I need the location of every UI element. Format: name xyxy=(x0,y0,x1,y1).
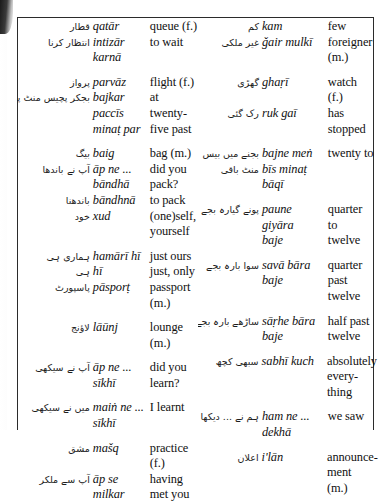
entry-transliteration: ham ne ... dekhā xyxy=(262,409,328,440)
entry-urdu-script: آپ سے ملکر xyxy=(17,472,93,488)
entry-transliteration: sabhī kuch xyxy=(262,354,327,370)
glossary-entry: ہماری ہیhamārī hījust ours xyxy=(17,249,198,265)
entry-transliteration: ghaṛī xyxy=(262,75,328,91)
entry-english-gloss: to wait xyxy=(150,35,198,51)
glossary-entry: ہم نے ... دیکھاham ne ... dekhāwe saw xyxy=(198,409,374,440)
entry-urdu-script: آپ نے باندھا xyxy=(17,162,93,178)
entry-urdu-script: میں نے سیکھی xyxy=(17,400,93,416)
entry-english-gloss: quarter past twelve xyxy=(328,258,374,305)
glossary-entry: میں نے سیکھیmaiṅ ne ... sīkhīI learnt xyxy=(17,400,198,431)
entry-urdu-script: ہماری ہی xyxy=(17,249,93,265)
glossary-entry: گھڑیghaṛīwatch (f.) xyxy=(198,75,374,106)
glossary-entry: لاؤنجlāūnjlounge (m.) xyxy=(17,320,198,351)
entry-english-gloss: did you pack? xyxy=(150,162,198,193)
entry-english-gloss: quarter to twelve xyxy=(328,202,374,249)
entry-english-gloss: foreigner (m.) xyxy=(328,35,374,66)
entry-urdu-script: منٹ باقی xyxy=(198,162,262,178)
entry-urdu-script: خود xyxy=(17,209,93,225)
entry-transliteration: qatār xyxy=(93,19,150,35)
glossary-entry: آپ نے باندھاāp ne ... bāndhādid you pack… xyxy=(17,162,198,193)
entry-urdu-script: اعلان xyxy=(198,450,262,466)
entry-english-gloss: having met you xyxy=(150,472,198,503)
entry-english-gloss: just, only xyxy=(150,264,198,280)
entry-urdu-script: بیگ xyxy=(17,146,93,162)
entry-urdu-script: ساڑھے بارہ بجے xyxy=(198,314,262,330)
glossary-entry: غیر ملکیǧair mulkīforeigner (m.) xyxy=(198,35,374,66)
glossary-entry: قطارqatārqueue (f.) xyxy=(17,19,198,35)
entry-urdu-script: آپ نے سیکھی xyxy=(17,360,93,376)
entry-english-gloss: queue (f.) xyxy=(150,19,198,35)
entry-urdu-script: قطار xyxy=(17,19,93,35)
left-column: قطارqatārqueue (f.)انتظار کرناintizār ka… xyxy=(17,19,198,429)
entry-urdu-script: پرواز xyxy=(17,75,93,91)
glossary-entry: آپ سے ملکرāp se milkarhaving met you xyxy=(17,472,198,503)
entry-transliteration: paune giyāra baje xyxy=(262,202,328,249)
entry-urdu-script: گھڑی xyxy=(198,75,262,91)
entry-transliteration: bajne meṅ xyxy=(262,146,328,162)
glossary-entry: بجکر پچیس منٹ پرbajkar paccīs minaṭ para… xyxy=(17,90,198,137)
glossary-entry: پونے گیارہ بجےpaune giyāra bajequarter t… xyxy=(198,202,374,249)
page-edge-shadow xyxy=(0,0,7,430)
entry-transliteration: pāsporṭ xyxy=(93,280,150,296)
entry-transliteration: bāndhnā xyxy=(93,193,150,209)
glossary-columns: قطارqatārqueue (f.)انتظار کرناintizār ka… xyxy=(17,19,374,429)
entry-english-gloss: practice (f.) xyxy=(150,441,198,472)
entry-urdu-script: بجکر پچیس منٹ پر xyxy=(17,90,93,106)
glossary-entry: بیگbaigbag (m.) xyxy=(17,146,198,162)
entry-transliteration: ǧair mulkī xyxy=(262,35,328,51)
entry-english-gloss: lounge (m.) xyxy=(150,320,198,351)
entry-transliteration: mašq xyxy=(93,441,150,457)
entry-urdu-script: مشق xyxy=(17,441,93,457)
entry-english-gloss: bag (m.) xyxy=(150,146,198,162)
entry-urdu-script: ہی xyxy=(17,264,93,280)
glossary-entry: اعلانi'lānannounce- ment (m.) xyxy=(198,450,374,497)
entry-transliteration: hī xyxy=(93,264,150,280)
glossary-entry: باندھناbāndhnāto pack xyxy=(17,193,198,209)
entry-english-gloss: at twenty- five past xyxy=(150,90,198,137)
glossary-entry: انتظار کرناintizār karnāto wait xyxy=(17,35,198,66)
entry-transliteration: āp se milkar xyxy=(93,472,150,503)
entry-english-gloss: flight (f.) xyxy=(150,75,198,91)
glossary-entry: آپ نے سیکھیāp ne ... sīkhīdid you learn? xyxy=(17,360,198,391)
entry-english-gloss: twenty to xyxy=(328,146,374,162)
entry-urdu-script: رک گئی xyxy=(198,106,262,122)
entry-transliteration: parvāz xyxy=(93,75,150,91)
entry-transliteration: xud xyxy=(93,209,150,225)
entry-urdu-script: باندھنا xyxy=(17,193,93,209)
entry-english-gloss: I learnt xyxy=(150,400,198,416)
glossary-entry: ہیhījust, only xyxy=(17,264,198,280)
entry-transliteration: sāṛhe bāra baje xyxy=(262,314,328,345)
glossary-entry: کمkamfew xyxy=(198,19,374,35)
glossary-entry: رک گئیruk gaīhas stopped xyxy=(198,106,374,137)
entry-transliteration: ruk gaī xyxy=(262,106,328,122)
entry-transliteration: lāūnj xyxy=(93,320,150,336)
entry-transliteration: savā bāra baje xyxy=(262,258,328,289)
glossary-entry: مشقmašqpractice (f.) xyxy=(17,441,198,472)
entry-english-gloss: has stopped xyxy=(328,106,374,137)
glossary-entry: پروازparvāzflight (f.) xyxy=(17,75,198,91)
entry-english-gloss: absolutely every- thing xyxy=(327,354,374,401)
entry-urdu-script: سبھی کچھ xyxy=(198,354,262,370)
entry-english-gloss: (one)self, yourself xyxy=(150,209,198,240)
glossary-entry: خودxud(one)self, yourself xyxy=(17,209,198,240)
entry-english-gloss: watch (f.) xyxy=(328,75,374,106)
right-column: کمkamfewغیر ملکیǧair mulkīforeigner (m.)… xyxy=(198,19,374,429)
entry-urdu-script: لاؤنج xyxy=(17,320,93,336)
entry-urdu-script: سوا بارہ بجے xyxy=(198,258,262,274)
entry-urdu-script: غیر ملکی xyxy=(198,35,262,51)
entry-transliteration: maiṅ ne ... sīkhī xyxy=(93,400,150,431)
entry-transliteration: hamārī hī xyxy=(93,249,150,265)
entry-transliteration: baig xyxy=(93,146,150,162)
entry-english-gloss: we saw xyxy=(328,409,374,425)
glossary-entry: سبھی کچھsabhī kuchabsolutely every- thin… xyxy=(198,354,374,401)
glossary-entry: بجنے میں بیسbajne meṅtwenty to xyxy=(198,146,374,162)
entry-urdu-script: بجنے میں بیس xyxy=(198,146,262,162)
entry-english-gloss: to pack xyxy=(150,193,198,209)
glossary-entry: سوا بارہ بجےsavā bāra bajequarter past t… xyxy=(198,258,374,305)
entry-transliteration: kam xyxy=(262,19,328,35)
glossary-entry: ساڑھے بارہ بجےsāṛhe bāra bajehalf past t… xyxy=(198,314,374,345)
entry-english-gloss: few xyxy=(328,19,374,35)
page-edge-artifact xyxy=(0,0,13,34)
entry-transliteration: bajkar paccīs minaṭ par xyxy=(93,90,150,137)
glossary-entry: منٹ باقیbīs minaṭ bāqī xyxy=(198,162,374,193)
